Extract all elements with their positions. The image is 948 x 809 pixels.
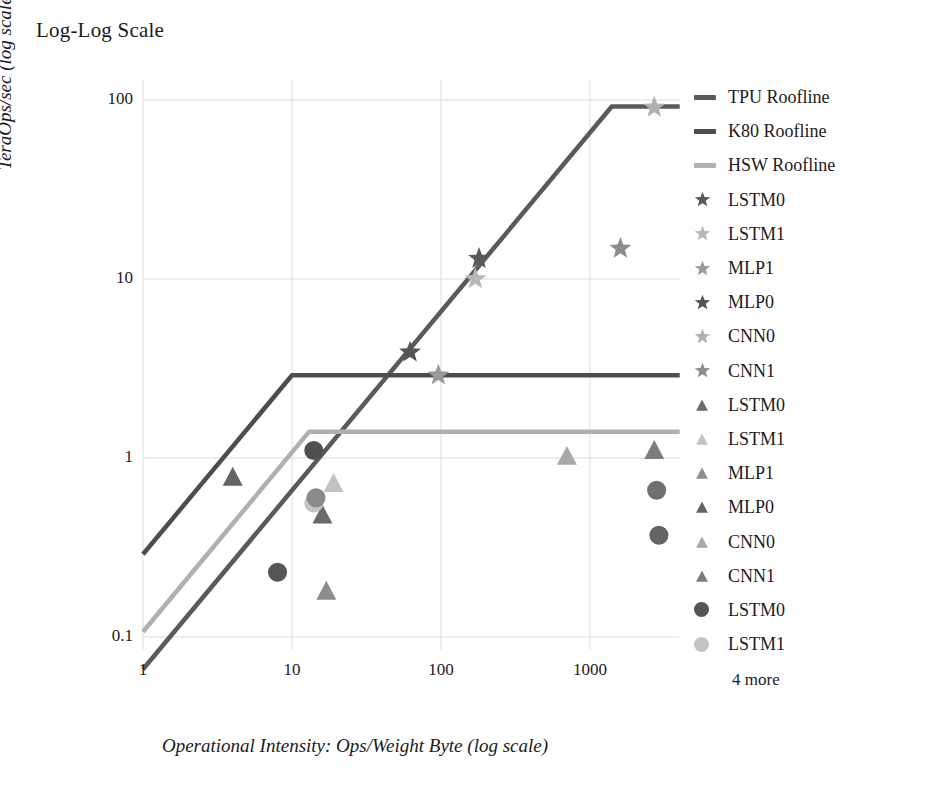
legend-item-label: K80 Roofline (728, 122, 827, 140)
x-axis-tick-label: 1 (113, 660, 173, 680)
data-point-mlp0-triangle (223, 467, 243, 486)
legend-item-label: MLP1 (728, 464, 774, 482)
y-axis-tick-label: 100 (73, 89, 133, 109)
legend-item-mlp0-triangle[interactable]: MLP0 (690, 490, 940, 524)
legend-more-label: 4 more (690, 670, 940, 690)
star-marker-icon (690, 294, 728, 311)
data-point-cnn0-triangle (557, 446, 577, 465)
legend-items: TPU RooflineK80 RooflineHSW RooflineLSTM… (690, 80, 940, 661)
y-axis-tick-label: 10 (73, 268, 133, 288)
legend-item-label: LSTM1 (728, 225, 785, 243)
legend-item-label: MLP0 (728, 293, 774, 311)
legend-item-mlp0-star[interactable]: MLP0 (690, 285, 940, 319)
triangle-marker-icon (690, 432, 728, 446)
legend-item-lstm1-star[interactable]: LSTM1 (690, 217, 940, 251)
legend-item-tpu roofline-line[interactable]: TPU Roofline (690, 80, 940, 114)
legend-item-mlp1-star[interactable]: MLP1 (690, 251, 940, 285)
star-marker-icon (690, 328, 728, 345)
x-axis-tick-label: 10 (262, 660, 322, 680)
legend-item-label: TPU Roofline (728, 88, 830, 106)
y-axis-tick-label: 1 (73, 447, 133, 467)
gridlines (143, 80, 680, 650)
legend-item-k80 roofline-line[interactable]: K80 Roofline (690, 114, 940, 148)
star-marker-icon (690, 260, 728, 277)
legend-item-lstm1-triangle[interactable]: LSTM1 (690, 422, 940, 456)
roofline-hsw (143, 432, 680, 632)
data-points (223, 96, 669, 600)
triangle-marker-icon (690, 569, 728, 583)
legend-item-label: CNN0 (728, 533, 775, 551)
data-point-lstm1-triangle (324, 473, 344, 492)
legend-item-cnn1-star[interactable]: CNN1 (690, 354, 940, 388)
legend-item-lstm0-triangle[interactable]: LSTM0 (690, 388, 940, 422)
legend-item-label: HSW Roofline (728, 156, 835, 174)
line-marker-icon (690, 95, 728, 100)
circle-marker-icon (690, 602, 728, 617)
legend-item-cnn0-triangle[interactable]: CNN0 (690, 524, 940, 558)
data-point-cnn0-star (643, 96, 665, 117)
data-point-cnn1-star (609, 237, 631, 258)
data-point-lstm0-circle (268, 563, 287, 582)
legend-item-lstm0-circle[interactable]: LSTM0 (690, 593, 940, 627)
legend-item-label: MLP1 (728, 259, 774, 277)
triangle-marker-icon (690, 535, 728, 549)
legend-item-label: CNN0 (728, 327, 775, 345)
triangle-marker-icon (690, 466, 728, 480)
roofline-tpu (143, 106, 680, 669)
legend-item-cnn0-star[interactable]: CNN0 (690, 319, 940, 353)
line-marker-icon (690, 163, 728, 168)
roofline-chart-figure: Log-Log Scale 1001010.1 1101001000 TeraO… (0, 0, 948, 809)
legend-item-hsw roofline-line[interactable]: HSW Roofline (690, 148, 940, 182)
legend-item-label: LSTM1 (728, 430, 785, 448)
circle-marker-icon (690, 637, 728, 652)
legend-item-cnn1-triangle[interactable]: CNN1 (690, 559, 940, 593)
data-point-lstm1-star (464, 268, 486, 289)
data-point-cnn0-circle (647, 481, 666, 500)
data-point-cnn1-triangle (644, 440, 664, 459)
legend-item-label: CNN1 (728, 362, 775, 380)
roofline-k80 (143, 375, 680, 554)
legend-item-label: LSTM0 (728, 191, 785, 209)
star-marker-icon (690, 191, 728, 208)
data-point-mlp1-star (427, 364, 449, 385)
data-point-cnn1-circle (649, 526, 668, 545)
legend-item-label: LSTM0 (728, 396, 785, 414)
data-point-mlp1-circle (307, 488, 326, 507)
y-axis-title: TeraOps/sec (log scale) (0, 0, 16, 250)
legend-item-mlp1-triangle[interactable]: MLP1 (690, 456, 940, 490)
y-axis-tick-label: 0.1 (73, 626, 133, 646)
star-marker-icon (690, 225, 728, 242)
triangle-marker-icon (690, 500, 728, 514)
star-marker-icon (690, 362, 728, 379)
legend-item-lstm1-circle[interactable]: LSTM1 (690, 627, 940, 661)
triangle-marker-icon (690, 398, 728, 412)
legend-item-label: LSTM0 (728, 601, 785, 619)
legend-item-label: CNN1 (728, 567, 775, 585)
x-axis-title: Operational Intensity: Ops/Weight Byte (… (95, 735, 615, 757)
legend-item-label: LSTM1 (728, 635, 785, 653)
data-point-mlp0-circle (304, 441, 323, 460)
x-axis-tick-label: 1000 (560, 660, 620, 680)
line-marker-icon (690, 129, 728, 134)
legend: TPU RooflineK80 RooflineHSW RooflineLSTM… (690, 80, 940, 690)
legend-item-label: MLP0 (728, 498, 774, 516)
roofline-lines (143, 106, 680, 669)
legend-item-lstm0-star[interactable]: LSTM0 (690, 183, 940, 217)
plot-container: 1001010.1 1101001000 TeraOps/sec (log sc… (0, 0, 700, 700)
x-axis-tick-label: 100 (411, 660, 471, 680)
data-point-mlp1-triangle (316, 581, 336, 600)
